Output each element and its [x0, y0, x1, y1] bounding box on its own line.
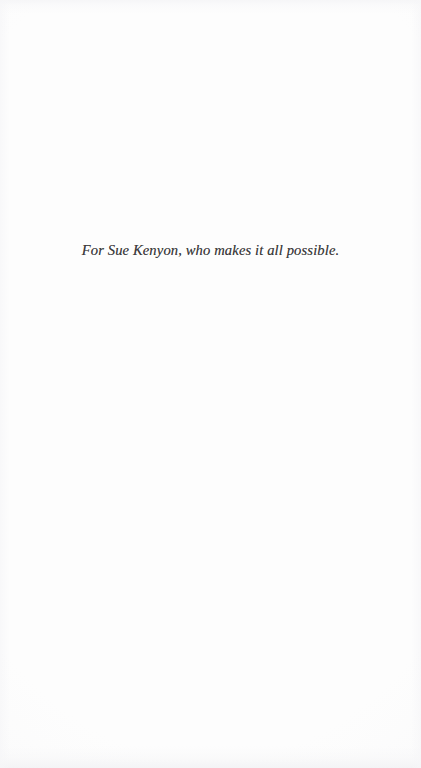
scan-edge-top — [0, 0, 421, 14]
scan-tone-overlay — [0, 0, 421, 768]
scan-edge-right — [411, 0, 421, 768]
scan-edge-bottom — [0, 746, 421, 768]
scan-edge-left — [0, 0, 10, 768]
dedication-text: For Sue Kenyon, who makes it all possibl… — [0, 241, 421, 259]
scanned-book-page: For Sue Kenyon, who makes it all possibl… — [0, 0, 421, 768]
